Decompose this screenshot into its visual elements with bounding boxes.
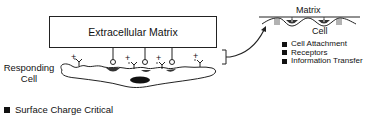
inset-matrix-label: Matrix	[296, 5, 321, 15]
extracellular-matrix-box: Extracellular Matrix	[49, 16, 217, 48]
nucleus-shape	[130, 77, 150, 84]
responding-cell-label-line2: Cell	[2, 73, 56, 84]
inset-cell-membrane	[262, 18, 356, 26]
matrix-box-label: Extracellular Matrix	[88, 26, 177, 38]
positive-charge: +	[125, 53, 130, 64]
inset-cell-label: Cell	[312, 26, 328, 36]
positive-charge: +	[71, 52, 76, 63]
responding-cell-label-line1: Responding	[2, 62, 56, 73]
positive-charge: +	[156, 53, 161, 64]
bottom-legend-item-surface-charge: Surface Charge Critical	[4, 104, 113, 115]
curved-arrow	[230, 30, 264, 57]
bracket	[222, 50, 230, 64]
legend-label: Surface Charge Critical	[15, 104, 113, 115]
positive-charge: +	[193, 51, 198, 62]
responding-cell-shape	[61, 64, 216, 88]
square-bullet-icon	[282, 42, 287, 47]
square-bullet-icon	[282, 59, 287, 64]
legend-label: Information Transfer	[291, 57, 363, 66]
inset-legend: Cell Attachment Receptors Information Tr…	[282, 40, 363, 66]
responding-cell-label: Responding Cell	[2, 62, 56, 84]
negative-charge-group	[74, 59, 196, 63]
legend-item-information-transfer: Information Transfer	[282, 57, 363, 66]
square-bullet-icon	[4, 107, 10, 113]
square-bullet-icon	[282, 50, 287, 55]
